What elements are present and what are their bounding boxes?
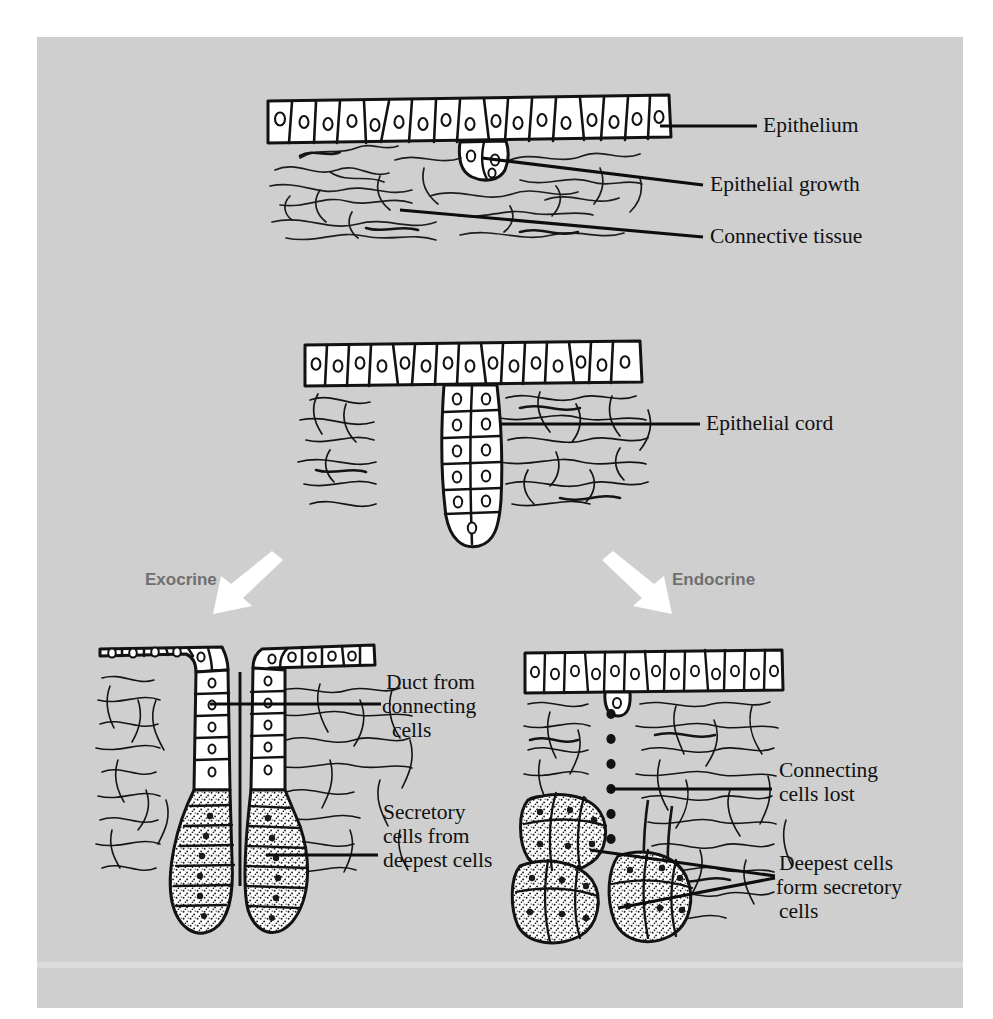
label-secretory-line3: deepest cells <box>383 848 492 873</box>
label-connective-tissue: Connective tissue <box>710 224 862 249</box>
figure-root: Epithelium Epithelial growth Connective … <box>0 0 993 1019</box>
label-duct-line3: cells <box>392 718 431 743</box>
label-epithelium: Epithelium <box>763 113 859 138</box>
label-connlost-line1: Connecting <box>779 758 878 783</box>
label-duct-line2: connecting <box>382 694 476 719</box>
label-secretory-line1: Secretory <box>383 800 465 825</box>
label-duct-line1: Duct from <box>386 670 475 695</box>
label-connlost-line2: cells lost <box>779 782 855 807</box>
label-epithelial-cord: Epithelial cord <box>706 411 833 436</box>
label-deepest-line1: Deepest cells <box>779 851 893 876</box>
label-deepest-line3: cells <box>779 899 818 924</box>
label-secretory-line2: cells from <box>383 824 470 849</box>
panel-highlight-band <box>37 962 963 968</box>
branch-label-exocrine: Exocrine <box>145 570 217 590</box>
branch-label-endocrine: Endocrine <box>672 570 755 590</box>
label-epithelial-growth: Epithelial growth <box>710 172 860 197</box>
label-deepest-line2: form secretory <box>776 875 902 900</box>
